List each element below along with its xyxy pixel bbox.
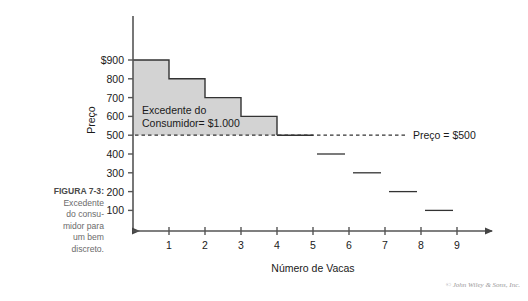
x-tick-label: 1: [166, 239, 172, 251]
y-tick-label: 700: [106, 92, 124, 104]
surplus-label-line-2: Consumidor= $1.000: [142, 117, 240, 129]
y-axis: $900800700600500400300200100: [101, 16, 133, 231]
y-tick-label: 400: [106, 148, 124, 160]
chart-plot-area: Preço = $500 $90080070060050040030020010…: [0, 0, 528, 301]
x-tick-label: 8: [418, 239, 424, 251]
y-tick-label: 800: [106, 73, 124, 85]
x-tick-label: 2: [202, 239, 208, 251]
y-tick-label: 500: [106, 129, 124, 141]
y-tick-label: 100: [106, 204, 124, 216]
x-tick-label: 7: [382, 239, 388, 251]
x-tick-label: 5: [310, 239, 316, 251]
x-tick-label: 9: [454, 239, 460, 251]
x-axis: 123456789: [133, 227, 492, 251]
x-tick-label: 3: [238, 239, 244, 251]
price-line-label: Preço = $500: [413, 129, 476, 141]
x-tick-label: 4: [274, 239, 280, 251]
y-tick-label: 600: [106, 110, 124, 122]
y-axis-title: Preço: [85, 106, 97, 134]
x-axis-title: Número de Vacas: [271, 262, 354, 274]
y-tick-label: 300: [106, 167, 124, 179]
surplus-label-line-1: Excedente do: [142, 104, 206, 116]
x-tick-label: 6: [346, 239, 352, 251]
figure-root: FIGURA 7-3: Excedente do consu- midor pa…: [0, 0, 528, 301]
y-tick-label: $900: [101, 54, 125, 66]
y-tick-label: 200: [106, 186, 124, 198]
